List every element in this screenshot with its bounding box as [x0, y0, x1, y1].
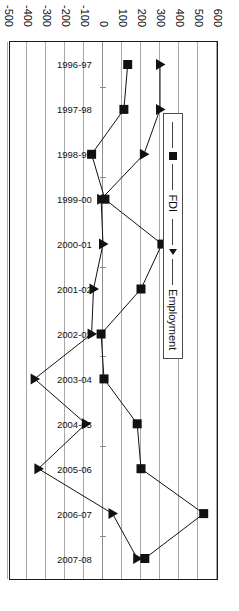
plot-area: 1996-971997-981998-991999-002000-012001-… — [9, 41, 218, 580]
square-marker-icon — [133, 419, 142, 428]
value-tick-label: -200 — [61, 0, 71, 27]
triangle-marker-icon — [88, 329, 98, 340]
triangle-marker-icon — [82, 418, 92, 429]
square-marker-icon — [87, 150, 96, 159]
triangle-marker-icon — [156, 59, 166, 70]
square-marker-icon — [123, 60, 132, 69]
value-tick-label: -400 — [23, 0, 33, 27]
chart-figure: 6005004003002001000-100-200-300-400-500 … — [0, 0, 239, 611]
legend-label-employment: Employment — [167, 289, 179, 350]
value-tick-label: 500 — [194, 0, 204, 27]
triangle-marker-icon — [109, 508, 119, 519]
chart-legend: FDI Employment — [163, 113, 183, 359]
value-tick-label: -500 — [4, 0, 14, 27]
value-tick-label: -300 — [42, 0, 52, 27]
series-line-fdi — [92, 65, 204, 559]
value-tick-label: 200 — [137, 0, 147, 27]
square-marker-icon — [199, 509, 208, 518]
legend-line-icon — [172, 259, 173, 285]
square-marker-icon — [97, 330, 106, 339]
square-marker-icon — [137, 285, 146, 294]
square-marker-icon — [169, 152, 177, 160]
rotated-chart-canvas: 6005004003002001000-100-200-300-400-500 … — [0, 0, 239, 611]
legend-label-fdi: FDI — [167, 194, 179, 212]
legend-line-icon — [172, 219, 173, 245]
value-tick-label: 600 — [213, 0, 223, 27]
value-tick-label: 100 — [118, 0, 128, 27]
triangle-marker-icon — [140, 149, 150, 160]
legend-item-employment: Employment — [167, 219, 179, 350]
legend-item-fdi: FDI — [167, 122, 179, 212]
triangle-marker-icon — [169, 249, 177, 255]
legend-line-icon — [172, 164, 173, 190]
value-tick-label: -100 — [80, 0, 90, 27]
value-tick-label: 0 — [99, 0, 109, 27]
square-marker-icon — [137, 464, 146, 473]
square-marker-icon — [119, 105, 128, 114]
triangle-marker-icon — [99, 239, 109, 250]
value-tick-label: 400 — [175, 0, 185, 27]
series-line-employment — [35, 65, 160, 559]
square-marker-icon — [100, 374, 109, 383]
series-layer — [8, 42, 217, 581]
legend-line-icon — [172, 122, 173, 148]
value-tick-label: 300 — [156, 0, 166, 27]
